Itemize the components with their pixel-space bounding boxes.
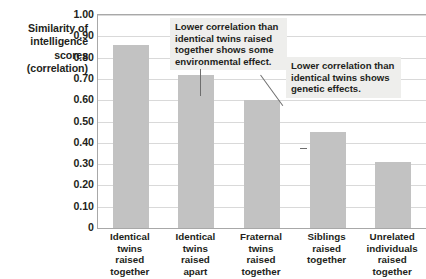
annotation-callout-environmental: Lower correlation than identical twins r… [170,18,287,70]
x-category-label: Identical twins raised apart [163,231,229,277]
annotation-callout-genetic: Lower correlation than identical twins s… [286,57,401,98]
y-tick-label: 0.60 [56,94,94,104]
y-tick-label: 0.10 [56,201,94,211]
x-category-label: Identical twins raised together [97,231,163,277]
y-tick-label: 0.80 [56,52,94,62]
y-tick-label: 0.40 [56,137,94,147]
y-tick-label: 0.30 [56,158,94,168]
bar[interactable] [244,100,280,228]
bar[interactable] [375,162,411,228]
x-category-label: Unrelated individuals raised together [359,231,425,277]
bar-slot [98,15,164,228]
y-axis-tick-labels: 1.00 0.90 0.80 0.70 0.60 0.50 0.40 0.30 … [56,0,94,279]
bar[interactable] [113,45,149,228]
x-category-label: Siblings raised together [294,231,360,266]
x-axis-category-labels: Identical twins raised together Identica… [97,231,426,279]
y-tick-label: 1.00 [56,9,94,19]
y-tick-label: 0 [56,222,94,232]
y-tick-label: 0.50 [56,116,94,126]
x-category-label: Fraternal twins raised together [228,231,294,277]
y-tick-label: 0.70 [56,73,94,83]
bar-chart-figure: Similarity of intelligence scores (corre… [0,0,426,279]
bar-slot [360,15,426,228]
bar[interactable] [310,132,346,228]
y-tick-label: 0.90 [56,30,94,40]
bar[interactable] [178,75,214,228]
bar-slot [295,15,361,228]
annotation-leader-line-vertical [200,69,201,96]
y-tick-label: 0.20 [56,179,94,189]
annotation-leader-stub [300,148,307,149]
